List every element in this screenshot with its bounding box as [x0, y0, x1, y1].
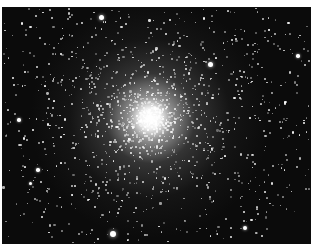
cluster-star [16, 203, 18, 205]
field-star [305, 175, 306, 176]
cluster-star [85, 160, 87, 162]
cluster-star [192, 173, 194, 175]
field-star [60, 38, 61, 39]
field-star [240, 98, 242, 100]
cluster-star [111, 40, 112, 41]
cluster-star [185, 98, 187, 100]
cluster-star [156, 60, 157, 61]
field-star [240, 197, 241, 198]
cluster-star [161, 139, 163, 141]
cluster-star [105, 184, 107, 186]
cluster-star [120, 112, 122, 114]
cluster-star [56, 165, 57, 166]
bright-star [36, 168, 40, 172]
cluster-star [52, 53, 54, 55]
field-star [227, 119, 229, 121]
cluster-star [33, 180, 34, 181]
cluster-star [134, 82, 135, 83]
cluster-star [87, 199, 89, 201]
field-star [168, 43, 170, 45]
field-star [46, 190, 48, 192]
cluster-star [80, 88, 82, 90]
field-star [136, 136, 138, 138]
cluster-star [107, 192, 109, 194]
cluster-star [75, 208, 76, 209]
cluster-star [108, 126, 110, 128]
cluster-star [123, 110, 124, 111]
cluster-star [69, 34, 70, 35]
cluster-star [140, 114, 142, 116]
cluster-star [257, 63, 259, 65]
field-star [174, 164, 175, 165]
cluster-star [212, 136, 214, 138]
cluster-star [203, 148, 205, 150]
cluster-star [189, 115, 191, 117]
cluster-star [118, 123, 120, 125]
cluster-star [136, 122, 138, 124]
field-star [102, 135, 103, 136]
cluster-star [146, 150, 148, 152]
field-star [92, 118, 93, 119]
cluster-star [36, 66, 38, 68]
cluster-star [134, 47, 135, 48]
cluster-star [166, 81, 168, 83]
cluster-star [140, 90, 141, 91]
cluster-star [268, 29, 269, 30]
cluster-star [214, 173, 216, 175]
cluster-star [207, 186, 209, 188]
field-star [246, 137, 247, 138]
cluster-star [222, 157, 224, 159]
cluster-star [156, 168, 158, 170]
cluster-star [77, 47, 79, 49]
cluster-star [103, 66, 105, 68]
bright-star [296, 54, 300, 58]
bright-star [17, 118, 21, 122]
cluster-star [147, 153, 149, 155]
cluster-star [129, 90, 131, 92]
cluster-star [118, 120, 120, 122]
field-star [181, 178, 182, 179]
cluster-star [84, 183, 85, 184]
field-star [296, 92, 298, 94]
field-star [75, 53, 76, 54]
field-star [89, 86, 90, 87]
cluster-star [127, 220, 129, 222]
cluster-star [156, 145, 158, 147]
cluster-star [143, 107, 145, 109]
field-star [186, 56, 188, 58]
cluster-star [142, 181, 144, 183]
cluster-star [151, 81, 152, 82]
cluster-star [143, 147, 145, 149]
field-star [266, 228, 268, 230]
cluster-star [186, 80, 188, 82]
cluster-star [203, 84, 205, 86]
cluster-star [243, 220, 245, 222]
cluster-star [7, 123, 9, 125]
cluster-star [219, 130, 221, 132]
cluster-star [173, 135, 174, 136]
cluster-star [154, 146, 155, 147]
cluster-star [24, 85, 25, 86]
cluster-star [170, 124, 172, 126]
field-star [183, 35, 184, 36]
cluster-star [128, 16, 130, 18]
cluster-star [178, 45, 180, 47]
field-star [36, 199, 38, 201]
field-star [290, 49, 291, 50]
cluster-star [29, 189, 30, 190]
cluster-star [174, 121, 176, 123]
cluster-star [109, 141, 111, 143]
cluster-star [196, 185, 198, 187]
field-star [142, 138, 143, 139]
cluster-star [196, 118, 198, 120]
field-star [217, 233, 218, 234]
cluster-star [264, 78, 266, 80]
cluster-star [165, 141, 166, 142]
cluster-star [294, 81, 296, 83]
field-star [177, 104, 179, 106]
cluster-star [288, 135, 290, 137]
cluster-star [275, 107, 276, 108]
cluster-star [154, 133, 156, 135]
cluster-star [208, 182, 209, 183]
field-star [248, 183, 249, 184]
